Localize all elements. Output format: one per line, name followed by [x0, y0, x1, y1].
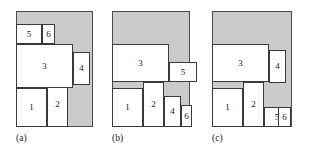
rect-label: 2 [251, 100, 256, 109]
rect-label: 6 [282, 113, 287, 122]
panel-caption-a: (a) [16, 133, 27, 143]
panel-caption-c: (c) [212, 133, 223, 143]
packed-rect-a-6: 6 [42, 24, 55, 44]
rect-label: 5 [181, 68, 186, 77]
rect-label: 2 [55, 100, 60, 109]
packing-figure: 123456(a)123456(b)123456(c) [0, 0, 309, 156]
packed-rect-b-2: 2 [143, 82, 164, 127]
rect-label: 2 [151, 100, 156, 109]
packed-rect-a-2: 2 [47, 82, 68, 127]
panel-caption-b: (b) [112, 133, 123, 143]
rect-label: 3 [238, 59, 243, 68]
rect-label: 3 [138, 59, 143, 68]
panel-b: 123456 [112, 11, 190, 127]
rect-label: 1 [29, 103, 34, 112]
packed-rect-a-1: 1 [16, 88, 47, 127]
rect-label: 3 [42, 62, 47, 71]
rect-label: 4 [170, 107, 175, 116]
packed-rect-c-2: 2 [243, 82, 264, 127]
rect-label: 5 [27, 30, 32, 39]
packed-rect-b-6: 6 [181, 105, 192, 127]
panel-a: 123456 [16, 11, 93, 127]
rect-label: 4 [275, 62, 280, 71]
packed-rect-c-6: 6 [278, 107, 291, 127]
rect-label: 6 [184, 112, 189, 121]
packed-rect-b-5: 5 [169, 62, 197, 82]
packed-rect-a-3: 3 [16, 44, 73, 88]
panel-c: 123456 [212, 11, 292, 127]
packed-rect-b-4: 4 [164, 96, 181, 127]
packed-rect-c-3: 3 [212, 44, 269, 82]
rect-label: 4 [79, 64, 84, 73]
rect-label: 6 [46, 30, 51, 39]
packed-rect-c-1: 1 [212, 88, 243, 127]
rect-label: 1 [125, 103, 130, 112]
packed-rect-c-4: 4 [269, 50, 286, 83]
packed-rect-b-3: 3 [112, 44, 169, 82]
packed-rect-b-1: 1 [112, 88, 143, 127]
packed-rect-a-5: 5 [16, 24, 42, 44]
rect-label: 1 [225, 103, 230, 112]
packed-rect-a-4: 4 [73, 52, 90, 85]
